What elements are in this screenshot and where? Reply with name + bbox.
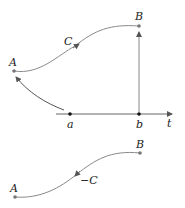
axis-label-b: b	[136, 118, 143, 131]
top-diagram: A B C a b t	[8, 10, 172, 131]
axis-point-b	[137, 112, 141, 116]
curve-reversal-diagram: A B C a b t A B −C	[0, 0, 185, 208]
curve-minus-c-label: −C	[80, 174, 98, 187]
axis-point-a	[68, 112, 72, 116]
point-a-label: A	[8, 56, 17, 69]
point-a-dot	[12, 69, 16, 73]
point-b-dot-bottom	[138, 151, 142, 155]
curve-c-label: C	[64, 35, 73, 48]
axis-label-a: a	[67, 118, 74, 131]
point-a-dot-bottom	[13, 195, 17, 199]
curve-c	[14, 26, 139, 72]
axis-label-t: t	[167, 117, 172, 130]
point-b-dot	[137, 24, 141, 28]
curve-minus-c	[15, 152, 140, 197]
map-arrow-a-to-A	[16, 77, 64, 110]
bottom-diagram: A B −C	[9, 138, 144, 199]
point-b-label: B	[134, 10, 143, 23]
point-b-label-bottom: B	[135, 138, 144, 151]
point-a-label-bottom: A	[9, 182, 18, 195]
